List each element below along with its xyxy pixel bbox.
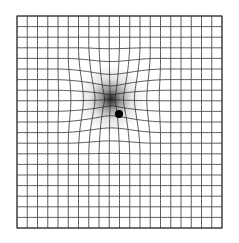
amsler-grid-canvas: Amsler Grid <box>0 0 239 243</box>
amsler-grid-figure: Amsler Grid <box>0 0 239 243</box>
scotoma-smudge <box>77 65 145 133</box>
fixation-dot <box>115 110 123 118</box>
